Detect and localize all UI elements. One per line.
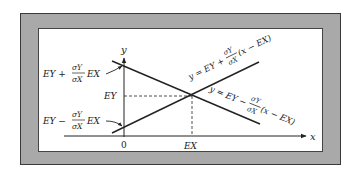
decreasing-line: [112, 61, 260, 124]
svg-text:σX: σX: [246, 105, 259, 116]
lower-intercept-label: EY − σY σX EX: [42, 110, 101, 131]
svg-text:σY: σY: [250, 95, 263, 106]
upper-pointer-arrow: [106, 66, 122, 74]
lower-pointer-arrow: [106, 121, 122, 126]
svg-text:EY −: EY −: [42, 116, 66, 126]
svg-text:σY: σY: [72, 110, 83, 119]
svg-text:EY +: EY +: [42, 69, 66, 79]
x-axis-label: x: [310, 131, 316, 142]
svg-text:σX: σX: [72, 75, 83, 84]
ey-label: EY: [103, 91, 118, 101]
regression-lines-diagram: y x 0 EX EY EY + σY σX EX EY − σY σX EX …: [0, 0, 356, 178]
svg-text:EX: EX: [86, 116, 101, 126]
upper-intercept-label: EY + σY σX EX: [42, 63, 101, 84]
y-axis-label: y: [120, 44, 127, 55]
origin-label: 0: [121, 140, 127, 150]
svg-text:σX: σX: [72, 122, 83, 131]
svg-text:EX: EX: [86, 69, 101, 79]
ex-label: EX: [183, 141, 198, 151]
decreasing-line-equation: y = EY − σY σX (x − EX): [206, 79, 299, 131]
svg-text:σY: σY: [222, 45, 235, 57]
svg-text:σY: σY: [72, 63, 83, 72]
svg-text:(x − EX): (x − EX): [259, 104, 296, 127]
svg-text:y = EY +: y = EY +: [186, 56, 226, 83]
svg-text:(x − EX): (x − EX): [236, 33, 273, 58]
